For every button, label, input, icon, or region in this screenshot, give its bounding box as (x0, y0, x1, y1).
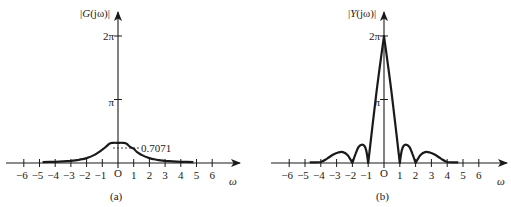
x-tick-label: −1 (94, 169, 106, 181)
x-tick-label: −2 (79, 169, 91, 181)
x-tick-label: 4 (444, 169, 450, 181)
x-tick-label: −3 (63, 169, 75, 181)
y-tick-label: 2π (369, 30, 381, 42)
y-tick-label: 2π (103, 30, 115, 42)
x-tick-label: 5 (194, 169, 200, 181)
x-tick-label: −4 (313, 169, 325, 181)
figure: −6−5−4−3−2−1O123456 π2π 0.7071 |G(jω)| ω… (0, 0, 511, 207)
x-tick-label: O (114, 167, 122, 179)
x-tick-label: 5 (460, 169, 466, 181)
x-tick-label: −6 (16, 169, 28, 181)
panel-label: (b) (376, 190, 389, 203)
y-axis-label: |Y(jω)| (348, 7, 376, 20)
panel-label: (a) (110, 190, 123, 203)
x-tick-label: −5 (297, 169, 309, 181)
x-tick-label: 1 (397, 169, 403, 181)
x-tick-label: 1 (131, 169, 137, 181)
x-tick-label: 3 (429, 169, 435, 181)
figure-svg: −6−5−4−3−2−1O123456 π2π 0.7071 |G(jω)| ω… (0, 0, 511, 207)
x-tick-label: 2 (413, 169, 419, 181)
panel-a-magnitude-G: −6−5−4−3−2−1O123456 π2π 0.7071 |G(jω)| ω… (6, 7, 240, 203)
x-tick-label: −5 (32, 169, 44, 181)
x-axis-label: ω (229, 175, 237, 187)
x-tick-label: 4 (178, 169, 184, 181)
y-ticks: π2π (103, 30, 122, 108)
y-tick-label: π (108, 96, 114, 108)
y-axis-label: |G(jω)| (80, 7, 110, 20)
x-tick-label: −4 (47, 169, 59, 181)
annotation-label: 0.7071 (141, 142, 171, 154)
x-tick-label: −1 (360, 169, 372, 181)
x-tick-label: 2 (147, 169, 153, 181)
x-tick-label: 6 (209, 169, 215, 181)
x-tick-label: O (380, 167, 388, 179)
x-tick-label: −6 (281, 169, 293, 181)
panel-b-magnitude-Y: −6−5−4−3−2−1O123456 π2π |Y(jω)| ω (b) (271, 7, 507, 203)
x-tick-label: 3 (162, 169, 168, 181)
x-tick-label: −3 (329, 169, 341, 181)
x-axis-label: ω (497, 175, 505, 187)
x-tick-label: −2 (345, 169, 357, 181)
x-tick-label: 6 (476, 169, 482, 181)
